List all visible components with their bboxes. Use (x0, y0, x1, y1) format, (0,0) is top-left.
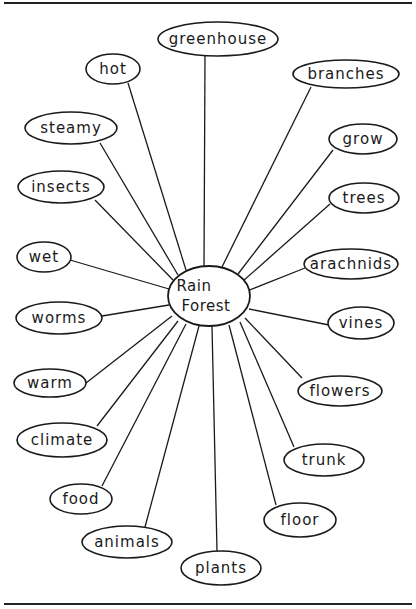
connector-worms (102, 305, 169, 316)
node-label: arachnids (310, 255, 392, 273)
node-animals: animals (82, 526, 172, 558)
node-steamy: steamy (25, 112, 117, 144)
node-label: flowers (309, 382, 370, 400)
node-label: wet (29, 248, 59, 266)
node-food: food (50, 484, 112, 514)
node-grow: grow (329, 124, 397, 154)
connector-climate (97, 321, 178, 426)
node-trees: trees (329, 183, 399, 213)
connector-flowers (245, 318, 302, 378)
node-flowers: flowers (298, 376, 382, 406)
node-warm: warm (14, 369, 86, 397)
connector-food (102, 324, 186, 486)
node-insects: insects (18, 171, 104, 203)
node-plants: plants (181, 551, 261, 585)
connector-branches (222, 87, 311, 267)
center-topic: Rain Forest (168, 266, 250, 326)
rain-forest-concept-web: greenhousehotbranchessteamygrowinsectstr… (0, 0, 416, 609)
node-label: trees (343, 189, 386, 207)
node-trunk: trunk (284, 444, 364, 476)
node-vines: vines (328, 307, 394, 339)
connector-vines (249, 309, 329, 325)
connector-greenhouse (204, 56, 205, 266)
connector-wet (70, 260, 169, 289)
node-label: branches (307, 65, 384, 83)
connector-animals (145, 326, 199, 527)
center-bubble (168, 266, 250, 326)
node-label: vines (339, 314, 384, 332)
node-label: food (62, 490, 99, 508)
center-label-line2: Forest (181, 297, 230, 315)
connector-arachnids (247, 268, 305, 291)
center-label-line1: Rain (177, 277, 212, 295)
node-label: climate (31, 431, 94, 449)
node-label: animals (94, 533, 160, 551)
node-wet: wet (17, 242, 71, 272)
connector-plants (212, 326, 217, 551)
connector-steamy (100, 143, 178, 275)
node-floor: floor (264, 503, 336, 537)
node-label: greenhouse (169, 30, 268, 48)
node-label: warm (27, 374, 73, 392)
node-climate: climate (17, 423, 107, 457)
node-label: plants (195, 559, 247, 577)
node-label: trunk (302, 451, 347, 469)
node-worms: worms (16, 302, 102, 334)
node-label: insects (31, 178, 91, 196)
node-label: hot (99, 60, 127, 78)
node-arachnids: arachnids (304, 249, 398, 279)
connector-insects (95, 200, 173, 280)
node-branches: branches (293, 60, 399, 88)
node-label: steamy (40, 119, 102, 137)
node-label: worms (32, 309, 87, 327)
node-label: grow (343, 130, 384, 148)
node-label: floor (281, 511, 320, 529)
connector-warm (86, 316, 172, 383)
node-greenhouse: greenhouse (158, 22, 278, 56)
node-hot: hot (86, 54, 140, 84)
